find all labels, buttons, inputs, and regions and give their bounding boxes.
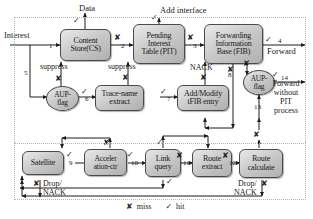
label-drop-nack-left: Drop/NACK: [43, 180, 66, 198]
mark-miss-rcalc-drop: ✘: [261, 180, 268, 188]
label-nack-top: NACK: [190, 64, 213, 72]
node-content-store-label: ContentStore(CS): [69, 37, 101, 53]
mark-hit-accel-link: ✓: [127, 151, 134, 159]
mark-miss-aup2-13: ✘: [253, 131, 260, 139]
mark-hit-aup2-forward: ✓: [272, 71, 279, 79]
node-aup-flag-1[interactable]: AUP-flag: [46, 86, 79, 111]
node-acceleration-ctr[interactable]: Acceleration-ctr: [84, 149, 127, 176]
edge-number-9: 9: [69, 160, 73, 167]
node-link-query-label: Linkquery: [153, 155, 172, 171]
legend-miss-label: miss: [137, 203, 152, 211]
mark-miss-aup2-up: ✘: [243, 60, 250, 68]
label-drop-nack-right: Drop/NACK: [234, 180, 257, 198]
edge-number-6: 6: [85, 96, 89, 103]
mark-miss-tfib-up: ✘: [200, 74, 207, 82]
mark-hit-cs-data: ✓: [73, 17, 80, 25]
node-forwarding-information-base-label: ForwardingInformationBase (FIB): [214, 32, 252, 56]
mark-miss-trace-up: ✘: [122, 74, 129, 82]
mark-hit-link-loop: ✓: [156, 139, 163, 147]
edge-number-7: 7: [167, 96, 171, 103]
label-add-interface: Add interface: [160, 6, 207, 15]
legend-item-hit: ✓ hit: [165, 203, 184, 211]
mark-miss-aup1-up: ✘: [55, 75, 62, 83]
label-suppress-1: suppress: [40, 63, 68, 71]
mark-miss-rextr-rcalc: ✘: [222, 152, 229, 160]
diagram-canvas: ContentStore(CS) PendingInterestTable (P…: [0, 0, 313, 219]
label-interest: Interest: [4, 31, 30, 40]
mark-hit-fib-forward: ✓: [265, 36, 272, 44]
legend-item-miss: ✘ miss: [126, 203, 151, 211]
mark-miss-fib-down: ✘: [227, 66, 234, 74]
mark-miss-pit-fib: ✘: [187, 34, 194, 42]
edge-number-5: 5: [24, 70, 28, 77]
mark-miss-cs-pit: ✘: [114, 34, 121, 42]
node-forwarding-information-base[interactable]: ForwardingInformationBase (FIB): [204, 24, 263, 64]
label-forward: Forward: [267, 47, 296, 56]
edge-number-13: 13: [254, 104, 261, 111]
node-pending-interest-table-label: PendingInterestTable (PIT): [141, 32, 178, 56]
edge-number-11: 11: [183, 160, 190, 167]
edge-number-10: 10: [131, 160, 138, 167]
edge-number-12: 12: [229, 160, 236, 167]
label-forward-without-pit: ForwardwithoutPITprocess: [265, 80, 307, 116]
edge-number-4: 4: [278, 38, 282, 45]
mark-miss-accel-loop: ✘: [103, 139, 110, 147]
label-drop-nack-left-text: Drop/NACK: [43, 179, 66, 197]
node-route-extract-label: Routeextract: [201, 155, 223, 171]
mark-hit-pit-addif: ✓: [151, 14, 158, 22]
label-data: Data: [79, 4, 95, 13]
node-trace-name-extract-label: Trace-nameextract: [101, 90, 139, 106]
legend-hit-label: hit: [176, 203, 184, 211]
node-add-modify-tfib-entry-label: Add/ModifytFIB entry: [183, 90, 223, 106]
mark-miss-sat-drop: ✘: [33, 180, 40, 188]
mark-hit-aup1-trace: ✓: [81, 88, 88, 96]
label-suppress-2: suppress: [108, 63, 136, 71]
mark-miss-link-rextr: ✘: [176, 152, 183, 160]
legend-hit-icon: ✓: [165, 203, 172, 211]
node-acceleration-ctr-label: Acceleration-ctr: [93, 155, 119, 170]
node-pending-interest-table[interactable]: PendingInterestTable (PIT): [133, 24, 185, 64]
node-add-modify-tfib-entry[interactable]: Add/ModifytFIB entry: [177, 85, 229, 111]
mark-hit-trace-tfib: ✓: [160, 88, 167, 96]
legend: ✘ miss ✓ hit: [126, 203, 185, 211]
node-trace-name-extract[interactable]: Trace-nameextract: [95, 85, 144, 111]
node-aup-flag-1-label: AUP-flag: [53, 91, 72, 106]
edge-number-2: 2: [121, 43, 125, 50]
node-route-calculate-label: Routecalculate: [247, 155, 276, 171]
node-satellite[interactable]: Satellite: [22, 151, 64, 175]
node-route-calculate[interactable]: Routecalculate: [239, 149, 283, 178]
mark-hit-link-down: ✓: [166, 178, 173, 186]
label-drop-nack-right-text: Drop/NACK: [234, 179, 257, 197]
node-satellite-label: Satellite: [30, 159, 56, 167]
edge-number-1: 1: [49, 43, 53, 50]
label-forward-without-pit-text: ForwardwithoutPITprocess: [272, 79, 299, 115]
legend-miss-icon: ✘: [126, 203, 133, 211]
edge-number-14: 14: [281, 75, 288, 82]
mark-hit-sat-accel: ✓: [66, 151, 73, 159]
node-content-store[interactable]: ContentStore(CS): [60, 29, 111, 61]
edge-number-3: 3: [193, 43, 197, 50]
